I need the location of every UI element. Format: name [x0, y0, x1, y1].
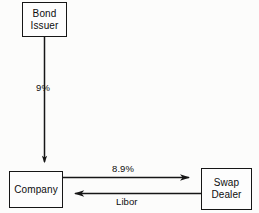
diagram-canvas: Bond Issuer Company Swap Dealer 9% 8.9% … — [0, 0, 259, 213]
node-bond-issuer: Bond Issuer — [22, 2, 67, 37]
edge-label-nine-percent: 9% — [36, 82, 50, 93]
node-swap-dealer-line-1: Swap — [214, 177, 239, 189]
node-swap-dealer: Swap Dealer — [201, 168, 252, 210]
node-swap-dealer-line-2: Dealer — [211, 189, 241, 201]
node-company: Company — [9, 171, 63, 208]
edge-label-libor: Libor — [116, 196, 138, 207]
edge-label-eight-nine-percent: 8.9% — [112, 163, 134, 174]
node-bond-issuer-line-1: Bond — [33, 8, 57, 20]
node-bond-issuer-line-2: Issuer — [31, 20, 59, 32]
node-company-line-1: Company — [14, 184, 58, 196]
